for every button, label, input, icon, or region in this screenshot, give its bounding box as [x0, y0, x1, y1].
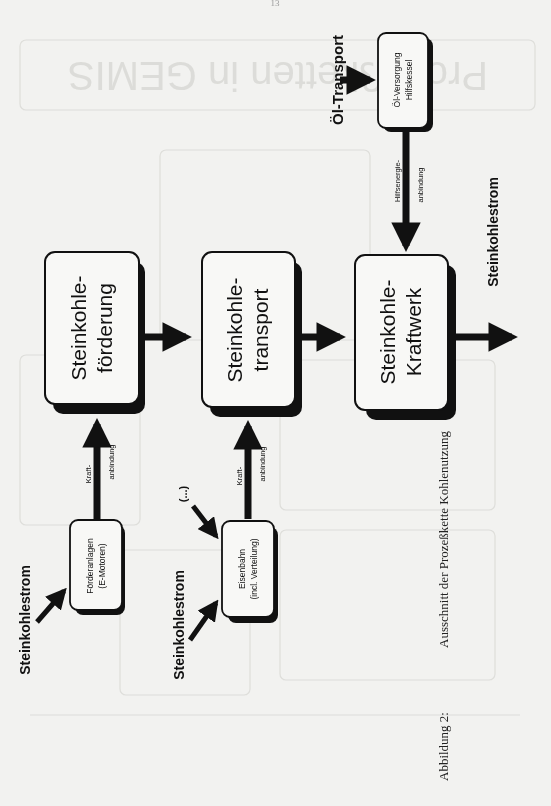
- box-steinkohle-foerderung: Steinkohle- förderung: [45, 252, 145, 414]
- label-line1: Kraft-: [235, 466, 244, 485]
- process-chain-diagram: Prozeßketten in GEMIS 13 Steinkohle- för…: [0, 0, 551, 806]
- label-oel-transport: Öl-Transport: [329, 35, 346, 125]
- box-label-line1: Eisenbahn: [237, 549, 247, 589]
- box-foerderanlagen: Förderanlagen (E-Motoren): [70, 520, 125, 615]
- box-steinkohle-kraftwerk: Steinkohle- Kraftwerk: [355, 255, 456, 420]
- label-output-steinkohlestrom: Steinkohlestrom: [485, 177, 501, 287]
- box-label-line1: Steinkohle-: [223, 277, 246, 382]
- label-line2: anbindung: [258, 446, 267, 481]
- arrow-ellipsis-to-eisenbahn: [193, 506, 216, 536]
- box-label-line1: Förderanlagen: [85, 538, 95, 594]
- label-input-steinkohlestrom-2: Steinkohlestrom: [171, 570, 187, 680]
- label-line1: Kraft-: [84, 464, 93, 483]
- arrow-strom-to-eisenbahn: [190, 603, 216, 640]
- box-label-line1: Steinkohle-: [376, 279, 399, 384]
- figure-caption-text: Ausschnitt der Prozeßkette Kohlenutzung: [436, 431, 451, 648]
- document-page: Prozeßketten in GEMIS 13 Steinkohle- för…: [0, 0, 551, 806]
- box-label-line1: Steinkohle-: [67, 275, 90, 380]
- box-label-line2: Hilfskessel: [404, 60, 414, 101]
- box-steinkohle-transport: Steinkohle- transport: [202, 252, 302, 417]
- box-label-line2: förderung: [93, 283, 116, 373]
- label-input-steinkohlestrom-1: Steinkohlestrom: [17, 565, 33, 675]
- label-line1: Hilfsenergie-: [393, 159, 402, 202]
- box-eisenbahn: Eisenbahn (incl. Verteilung): [222, 521, 278, 623]
- arrow-strom-to-foerderanlagen: [37, 591, 64, 622]
- box-label-line2: transport: [249, 288, 272, 371]
- label-line2: anbindung: [107, 444, 116, 479]
- box-label-line1: Öl-Versorgung: [392, 52, 402, 107]
- label-line2: anbindung: [416, 167, 425, 202]
- box-label-line2: Kraftwerk: [402, 287, 425, 376]
- box-oel-versorgung: Öl-Versorgung Hilfskessel: [378, 33, 433, 132]
- label-ellipsis: (...): [177, 485, 189, 502]
- figure-caption-label: Abbildung 2:: [436, 712, 451, 781]
- box-label-line2: (incl. Verteilung): [249, 538, 259, 599]
- page-number: 13: [271, 0, 281, 8]
- box-label-line2: (E-Motoren): [97, 543, 107, 589]
